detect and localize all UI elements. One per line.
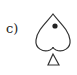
spade-outline-icon xyxy=(36,14,70,51)
spade-stem-triangle xyxy=(48,54,59,65)
dot-marker xyxy=(52,23,57,28)
spade-figure xyxy=(0,0,77,75)
